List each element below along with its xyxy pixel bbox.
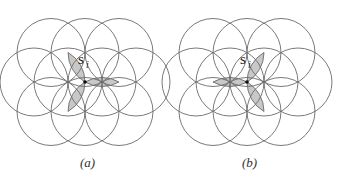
panel-a: s i (a) [0, 19, 170, 171]
panel-b: s i (b) [162, 19, 332, 171]
node-label-subscript: i [248, 59, 251, 70]
panel-caption-b: (b) [242, 155, 257, 170]
panel-caption-a: (a) [80, 155, 95, 170]
node-label-s: s [240, 51, 246, 67]
figure-canvas: s i (a) s i (b) [0, 0, 350, 184]
node-label-subscript: i [86, 59, 89, 70]
sensor-node-dot [245, 80, 249, 84]
node-label-s: s [78, 51, 84, 67]
sensor-node-dot [83, 80, 87, 84]
